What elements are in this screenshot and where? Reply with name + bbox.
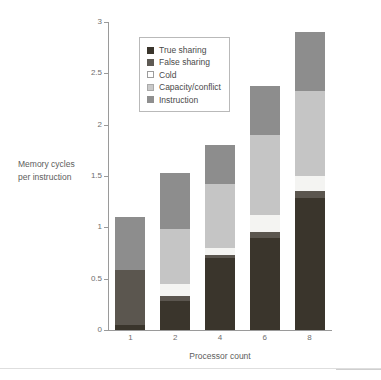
chart-figure: Memory cycles per instruction 00.511.522… xyxy=(0,0,381,380)
bar-segment xyxy=(205,145,235,184)
y-axis-tick-label: 2 xyxy=(98,121,102,129)
bar-segment xyxy=(295,191,325,197)
legend-swatch-icon xyxy=(147,71,154,78)
legend-swatch-icon xyxy=(147,59,154,66)
legend-item-label: True sharing xyxy=(159,46,206,55)
bar-segment xyxy=(160,229,190,283)
page-scan-line xyxy=(0,368,381,369)
bar-segment xyxy=(160,296,190,301)
y-axis-line xyxy=(108,22,109,330)
y-axis-tick-label: 3 xyxy=(98,18,102,26)
bar-segment xyxy=(295,32,325,91)
x-axis-tick-label: 6 xyxy=(263,334,267,342)
y-axis-tick xyxy=(104,22,108,23)
legend-item-label: Cold xyxy=(159,71,176,80)
legend-item-label: False sharing xyxy=(159,58,210,67)
y-axis-tick-label: 1 xyxy=(98,223,102,231)
y-axis-tick-label: 0 xyxy=(98,326,102,334)
bar-segment xyxy=(160,301,190,330)
bar-segment xyxy=(250,238,280,330)
y-axis-tick-label: 0.5 xyxy=(91,275,102,283)
bar-segment xyxy=(205,258,235,330)
bar-segment xyxy=(205,184,235,248)
bar-segment xyxy=(250,215,280,232)
page-scan-line-secondary xyxy=(336,369,381,370)
y-axis-tick-label: 1.5 xyxy=(91,172,102,180)
bar-segment xyxy=(250,86,280,135)
bar-segment xyxy=(160,284,190,296)
bar-segment xyxy=(250,135,280,215)
bar-segment xyxy=(115,325,145,330)
bar-segment xyxy=(115,270,145,324)
legend-item: True sharing xyxy=(147,44,221,56)
bar-segment xyxy=(295,198,325,330)
legend-swatch-icon xyxy=(147,96,154,103)
stacked-bar xyxy=(160,173,190,330)
bar-segment xyxy=(160,173,190,229)
stacked-bar xyxy=(250,86,280,330)
legend-item: Instruction xyxy=(147,94,221,106)
legend-swatch-icon xyxy=(147,47,154,54)
bar-segment xyxy=(115,217,145,270)
bar-segment xyxy=(295,176,325,191)
x-axis-tick-label: 2 xyxy=(173,334,177,342)
bar-segment xyxy=(295,91,325,176)
y-axis-tick xyxy=(104,73,108,74)
bar-segment xyxy=(205,248,235,255)
stacked-bar xyxy=(115,217,145,330)
legend-item-label: Instruction xyxy=(159,96,198,105)
legend-item: Cold xyxy=(147,69,221,81)
legend-item: Capacity/conflict xyxy=(147,81,221,93)
x-axis-tick-label: 4 xyxy=(218,334,222,342)
x-axis-title: Processor count xyxy=(108,352,332,361)
stacked-bar xyxy=(205,145,235,330)
stacked-bar xyxy=(295,32,325,330)
y-axis-tick xyxy=(104,125,108,126)
y-axis-tick xyxy=(104,176,108,177)
y-axis-tick xyxy=(104,227,108,228)
y-axis-title-line-2: per instruction xyxy=(18,171,100,184)
y-axis-tick xyxy=(104,279,108,280)
x-axis-tick-label: 8 xyxy=(307,334,311,342)
y-axis-tick xyxy=(104,330,108,331)
y-axis-tick-label: 2.5 xyxy=(91,69,102,77)
bar-segment xyxy=(250,232,280,237)
y-axis-title-line-1: Memory cycles xyxy=(18,158,100,171)
bar-segment xyxy=(205,255,235,258)
x-axis-tick-label: 1 xyxy=(128,334,132,342)
legend-item: False sharing xyxy=(147,56,221,68)
legend-swatch-icon xyxy=(147,84,154,91)
x-axis-line xyxy=(108,330,332,331)
legend-item-label: Capacity/conflict xyxy=(159,83,221,92)
y-axis-title: Memory cycles per instruction xyxy=(18,158,100,184)
chart-legend: True sharingFalse sharingColdCapacity/co… xyxy=(139,37,230,112)
